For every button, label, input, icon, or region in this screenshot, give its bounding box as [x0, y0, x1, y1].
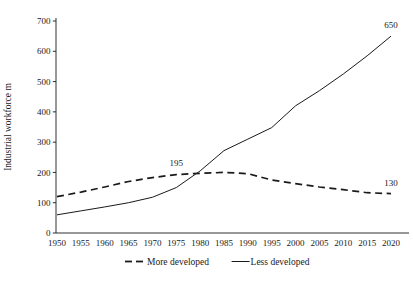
data-label-195: 195	[170, 158, 184, 168]
y-tick-label: 500	[37, 77, 51, 87]
x-tick-label: 2020	[382, 238, 401, 248]
series-line-less-developed	[57, 36, 391, 215]
x-tick-label: 1960	[96, 238, 115, 248]
y-tick-label: 200	[37, 168, 51, 178]
x-tick-label: 2015	[358, 238, 377, 248]
x-tick-label: 1970	[143, 238, 162, 248]
data-label-130: 130	[384, 178, 398, 188]
y-tick-label: 100	[37, 198, 51, 208]
x-tick-label: 2010	[334, 238, 353, 248]
x-tick-label: 1985	[215, 238, 234, 248]
y-tick-label: 600	[37, 46, 51, 56]
x-tick-label: 1950	[48, 238, 67, 248]
x-tick-label: 2005	[310, 238, 329, 248]
x-tick-label: 1955	[72, 238, 91, 248]
x-tick-label: 1965	[120, 238, 139, 248]
x-tick-label: 1975	[167, 238, 186, 248]
legend-label-less-developed: Less developed	[251, 257, 310, 267]
x-tick-label: 1980	[191, 238, 210, 248]
chart-canvas: 0100200300400500600700195019551960196519…	[0, 0, 413, 282]
y-tick-label: 700	[37, 16, 51, 26]
legend-label-more-developed: More developed	[147, 257, 209, 267]
x-tick-label: 2000	[287, 238, 306, 248]
y-tick-label: 300	[37, 137, 51, 147]
y-axis-title: Industrial workforce m	[3, 83, 13, 171]
x-tick-label: 1990	[239, 238, 258, 248]
y-tick-label: 400	[37, 107, 51, 117]
x-tick-label: 1995	[263, 238, 282, 248]
line-chart: 0100200300400500600700195019551960196519…	[0, 0, 413, 282]
series-line-more-developed	[57, 172, 391, 196]
data-label-650: 650	[384, 20, 398, 30]
